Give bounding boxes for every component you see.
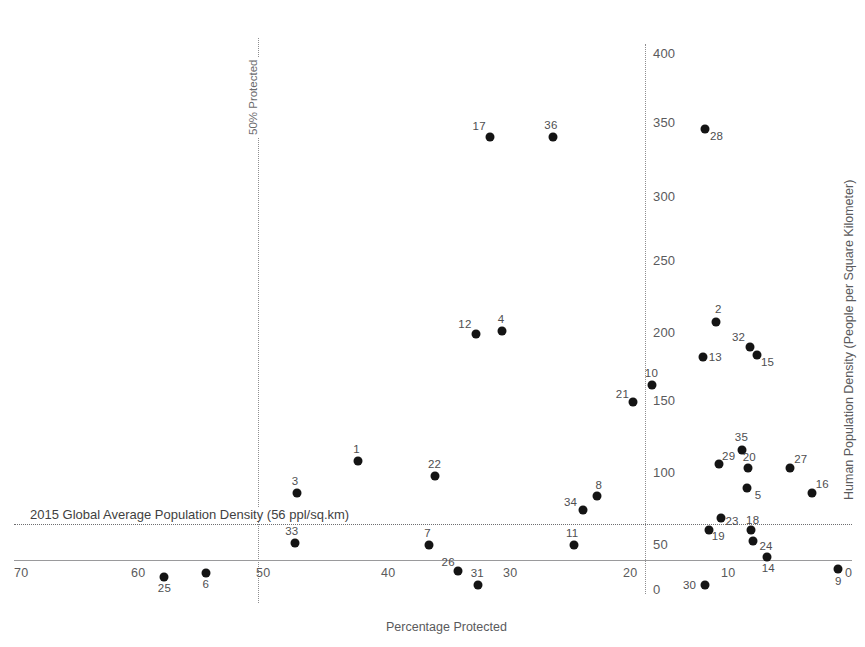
y-axis-title: Human Population Density (People per Squ…	[842, 180, 856, 500]
data-point-label: 28	[710, 130, 723, 142]
data-point-label: 26	[442, 556, 455, 568]
data-point	[746, 526, 755, 535]
data-point	[578, 506, 587, 515]
reference-line-zero-axis	[645, 44, 646, 594]
data-point	[353, 456, 362, 465]
data-point-label: 7	[424, 527, 431, 539]
x-tick-label-40: 40	[381, 566, 395, 580]
data-point-label: 10	[645, 367, 658, 379]
y-tick-label-350: 350	[653, 115, 675, 130]
data-point	[700, 581, 709, 590]
data-point	[424, 541, 433, 550]
data-point-label: 17	[473, 120, 486, 132]
data-point-label: 30	[683, 579, 696, 591]
data-point-label: 11	[566, 527, 578, 539]
data-point	[699, 352, 708, 361]
data-point-label: 33	[285, 525, 298, 537]
data-point-label: 32	[732, 331, 745, 343]
data-point	[498, 327, 507, 336]
data-point	[201, 569, 210, 578]
data-point-label: 6	[203, 578, 210, 590]
data-point	[592, 491, 601, 500]
y-tick-label-0: 0	[653, 582, 660, 597]
data-point	[290, 538, 299, 547]
data-point-label: 29	[722, 450, 735, 462]
y-tick-label-250: 250	[653, 253, 675, 268]
data-point-label: 21	[616, 388, 629, 400]
data-point	[629, 398, 638, 407]
x-tick-label-50: 50	[256, 566, 270, 580]
data-point	[834, 565, 843, 574]
data-point-label: 20	[743, 451, 756, 463]
x-tick-label-10: 10	[721, 566, 735, 580]
data-point	[745, 343, 754, 352]
reference-line-50-percent-label: 50% Protected	[247, 57, 259, 138]
data-point	[648, 380, 657, 389]
y-tick-label-400: 400	[653, 46, 675, 61]
data-point	[454, 566, 463, 575]
data-point-label: 34	[564, 496, 577, 508]
y-tick-label-50: 50	[653, 537, 668, 552]
data-point-label: 8	[595, 479, 602, 491]
x-axis-title: Percentage Protected	[386, 620, 507, 634]
data-point	[293, 489, 302, 498]
y-tick-label-100: 100	[653, 465, 675, 480]
x-tick-label-60: 60	[131, 566, 145, 580]
data-point	[712, 317, 721, 326]
data-point-label: 15	[761, 356, 774, 368]
data-point	[785, 463, 794, 472]
data-point	[752, 351, 761, 360]
data-point-label: 19	[712, 530, 725, 542]
data-point-label: 14	[762, 562, 775, 574]
data-point	[570, 541, 579, 550]
data-point-label: 3	[292, 475, 299, 487]
data-point	[474, 581, 483, 590]
y-tick-label-200: 200	[653, 325, 675, 340]
x-tick-label-20: 20	[623, 566, 637, 580]
data-point-label: 16	[816, 478, 829, 490]
data-point	[749, 537, 758, 546]
data-point-label: 5	[755, 489, 762, 501]
data-point	[430, 471, 439, 480]
data-point	[160, 573, 169, 582]
data-point	[717, 514, 726, 523]
y-tick-label-150: 150	[653, 393, 675, 408]
data-point	[486, 133, 495, 142]
data-point	[744, 463, 753, 472]
data-point-label: 36	[544, 119, 557, 131]
data-point-label: 18	[746, 514, 759, 526]
data-point-label: 31	[471, 567, 484, 579]
data-point	[471, 329, 480, 338]
scatter-plot-canvas: 50% Protected 2015 Global Average Popula…	[0, 0, 865, 647]
reference-line-global-average-label: 2015 Global Average Population Density (…	[28, 507, 351, 522]
x-tick-label-70: 70	[14, 566, 28, 580]
data-point-label: 35	[735, 431, 748, 443]
data-point	[763, 553, 772, 562]
data-point-label: 1	[353, 443, 360, 455]
x-tick-label-0: 0	[845, 566, 852, 580]
data-point	[700, 125, 709, 134]
data-point	[743, 483, 752, 492]
data-point-label: 9	[835, 575, 842, 587]
data-point	[548, 133, 557, 142]
x-tick-label-30: 30	[503, 566, 517, 580]
y-tick-label-300: 300	[653, 189, 675, 204]
data-point-label: 13	[709, 351, 722, 363]
data-point-label: 25	[158, 582, 171, 594]
data-point-label: 24	[759, 540, 772, 552]
data-point-label: 27	[794, 453, 807, 465]
x-axis-line	[14, 560, 852, 561]
data-point-label: 4	[498, 313, 505, 325]
data-point-label: 2	[715, 303, 722, 315]
data-point-label: 23	[725, 515, 738, 527]
data-point-label: 22	[428, 458, 441, 470]
data-point-label: 12	[458, 318, 471, 330]
